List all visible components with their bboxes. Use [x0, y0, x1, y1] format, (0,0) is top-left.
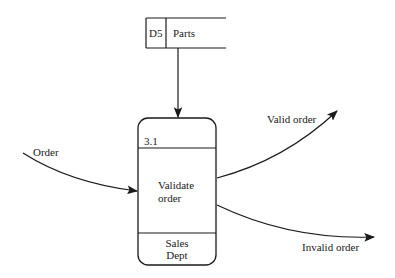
- flow-invalid-order-out[interactable]: [217, 205, 374, 237]
- flow-label-valid-order: Valid order: [267, 113, 316, 125]
- flow-order-in[interactable]: [23, 153, 137, 191]
- flow-label-invalid-order: Invalid order: [302, 241, 359, 253]
- process-name-line1: Validate: [158, 179, 194, 191]
- data-store-name: Parts: [173, 27, 195, 39]
- process-name-line2: order: [158, 192, 181, 204]
- process-location-line1: Sales: [138, 237, 216, 249]
- flow-label-order: Order: [33, 146, 59, 158]
- process-location-line2: Dept: [138, 249, 216, 261]
- data-store-id: D5: [149, 27, 162, 39]
- process-id: 3.1: [144, 135, 158, 147]
